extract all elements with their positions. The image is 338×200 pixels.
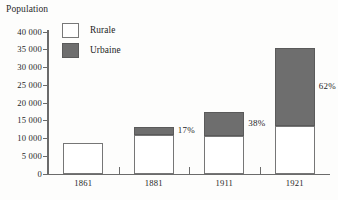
bar-1911	[204, 112, 244, 174]
y-tick-mark	[43, 156, 49, 157]
x-tick-mark	[48, 167, 49, 174]
y-tick-mark	[43, 103, 49, 104]
x-tick-mark	[260, 167, 261, 174]
x-tick-mark	[119, 167, 120, 174]
percent-label-1881: 17%	[178, 125, 195, 135]
y-tick-mark	[43, 49, 49, 50]
x-tick-label: 1911	[202, 178, 246, 188]
bar-segment-rurale	[134, 135, 174, 174]
chart-legend: Rurale Urbaine	[62, 20, 121, 60]
y-tick-label: 40 000	[17, 27, 42, 37]
bar-segment-urbaine	[134, 127, 174, 135]
y-tick-mark	[43, 32, 49, 33]
legend-item-urbaine: Urbaine	[62, 40, 121, 60]
y-tick-label: 25 000	[17, 80, 42, 90]
y-tick-mark	[43, 67, 49, 68]
bar-segment-urbaine	[275, 48, 315, 126]
legend-swatch-rurale-icon	[62, 23, 79, 38]
bar-segment-urbaine	[204, 112, 244, 136]
bar-1861	[63, 143, 103, 174]
x-tick-label: 1921	[273, 178, 317, 188]
bar-segment-rurale	[275, 126, 315, 174]
y-axis-title: Population	[6, 4, 48, 14]
x-tick-label: 1881	[132, 178, 176, 188]
legend-swatch-urbaine-icon	[62, 43, 79, 58]
legend-item-rurale: Rurale	[62, 20, 121, 40]
percent-label-1911: 38%	[248, 118, 265, 128]
legend-label-urbaine: Urbaine	[90, 45, 121, 55]
percent-label-1921: 62%	[319, 81, 336, 91]
bar-1881	[134, 127, 174, 174]
y-tick-label: 30 000	[17, 62, 42, 72]
x-tick-label: 1861	[61, 178, 105, 188]
legend-label-rurale: Rurale	[90, 25, 115, 35]
x-tick-mark	[189, 167, 190, 174]
bar-segment-rurale	[204, 136, 244, 174]
y-tick-label: 20 000	[17, 98, 42, 108]
y-tick-label: 35 000	[17, 44, 42, 54]
bar-1921	[275, 48, 315, 174]
y-tick-label: 10 000	[17, 133, 42, 143]
population-bar-chart: Population 05 00010 00015 00020 00025 00…	[0, 0, 338, 200]
y-tick-mark	[43, 120, 49, 121]
y-tick-mark	[43, 85, 49, 86]
y-tick-label: 15 000	[17, 115, 42, 125]
y-tick-label: 0	[38, 169, 43, 179]
y-tick-label: 5 000	[22, 151, 42, 161]
y-tick-mark	[43, 138, 49, 139]
bar-segment-rurale	[63, 143, 103, 174]
